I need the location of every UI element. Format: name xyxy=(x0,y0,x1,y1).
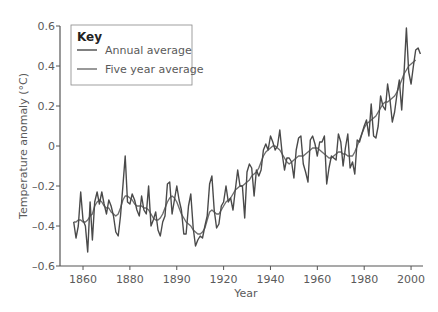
temperature-anomaly-chart: 0.60.40.20–0.2–0.4–0.6 18601880189019201… xyxy=(0,0,438,312)
y-tick-label: –0.4 xyxy=(32,220,55,233)
x-tick-label: 2000 xyxy=(397,273,425,286)
y-tick-label: –0.2 xyxy=(32,180,55,193)
legend-label-five-year: Five year average xyxy=(105,63,204,76)
x-axis-ticks: 18601880189019201940196019802000 xyxy=(69,266,425,286)
x-tick-label: 1960 xyxy=(303,273,331,286)
x-tick-label: 1940 xyxy=(256,273,284,286)
y-tick-label: 0.4 xyxy=(38,60,56,73)
x-tick-label: 1920 xyxy=(210,273,238,286)
y-tick-label: 0.2 xyxy=(38,100,56,113)
x-tick-label: 1880 xyxy=(116,273,144,286)
y-axis-title: Temperature anomaly (°C) xyxy=(17,73,30,220)
x-tick-label: 1890 xyxy=(163,273,191,286)
legend-label-annual: Annual average xyxy=(105,44,192,57)
y-tick-label: –0.6 xyxy=(32,260,55,273)
y-axis-ticks: 0.60.40.20–0.2–0.4–0.6 xyxy=(32,20,60,273)
x-tick-label: 1860 xyxy=(69,273,97,286)
y-tick-label: 0 xyxy=(48,140,55,153)
x-tick-label: 1980 xyxy=(350,273,378,286)
y-tick-label: 0.6 xyxy=(38,20,56,33)
x-axis-title: Year xyxy=(233,287,258,300)
legend: Key Annual average Five year average xyxy=(71,25,204,85)
legend-title: Key xyxy=(77,30,102,44)
